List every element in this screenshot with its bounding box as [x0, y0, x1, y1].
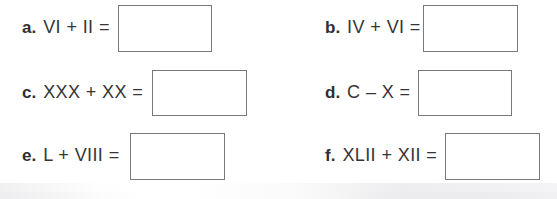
problem-a: a. VI + II = — [22, 17, 110, 38]
problem-a-expression: VI + II = — [43, 17, 110, 38]
answer-box-b[interactable] — [423, 5, 518, 52]
worksheet-page: a. VI + II = b. IV + VI = c. XXX + XX = … — [0, 0, 557, 199]
problem-b-expression: IV + VI = — [347, 17, 421, 38]
problem-b-letter: b. — [325, 18, 340, 38]
problem-c: c. XXX + XX = — [22, 82, 143, 103]
answer-box-f[interactable] — [445, 133, 540, 180]
problem-f-letter: f. — [325, 146, 335, 166]
problem-e-letter: e. — [22, 146, 36, 166]
problem-d-expression: C – X = — [347, 82, 410, 103]
problem-b: b. IV + VI = — [325, 17, 421, 38]
problem-e: e. L + VIII = — [22, 145, 120, 166]
answer-box-c[interactable] — [152, 70, 247, 116]
problem-f: f. XLII + XII = — [325, 145, 437, 166]
problem-f-expression: XLII + XII = — [342, 145, 437, 166]
problem-a-letter: a. — [22, 18, 36, 38]
answer-box-a[interactable] — [118, 5, 212, 52]
answer-box-e[interactable] — [130, 133, 225, 180]
problem-e-expression: L + VIII = — [43, 145, 119, 166]
problem-d-letter: d. — [325, 83, 340, 103]
problem-c-letter: c. — [22, 83, 36, 103]
problem-c-expression: XXX + XX = — [43, 82, 143, 103]
scan-artifact — [0, 183, 557, 199]
scan-artifact-edge — [0, 192, 557, 199]
answer-box-d[interactable] — [418, 70, 512, 116]
problem-d: d. C – X = — [325, 82, 410, 103]
